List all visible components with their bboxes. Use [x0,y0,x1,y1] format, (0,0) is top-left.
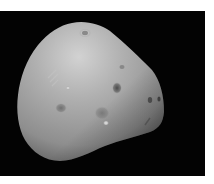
image-caption [0,178,214,184]
crater-top-core [82,31,88,35]
bright-spot-mid [66,86,71,90]
moon-illustration [0,11,205,176]
bright-spot-lower [103,121,109,126]
moon-photo [0,11,205,176]
crater-dark-center [112,82,122,94]
crater-small-upper-right [120,65,125,69]
moon-shadow [17,22,164,161]
crater-left [55,103,67,113]
crater-small-right-2 [157,97,160,102]
crater-small-right-1 [148,97,152,103]
crater-lower-center [94,106,110,120]
